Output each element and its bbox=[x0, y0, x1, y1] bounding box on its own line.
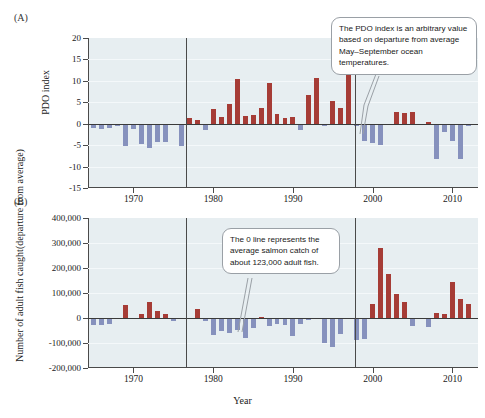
bar-a-1981 bbox=[219, 117, 224, 124]
bar-b-2002 bbox=[386, 274, 391, 318]
bar-b-2010 bbox=[450, 282, 455, 318]
panel-a-label: (A) bbox=[14, 12, 28, 23]
x-axis-tick-label: 2010 bbox=[443, 194, 462, 204]
bar-b-2001 bbox=[378, 248, 383, 318]
y-axis-tick-label: 0 bbox=[77, 313, 89, 323]
bar-a-1992 bbox=[306, 95, 311, 124]
bar-a-2009 bbox=[442, 124, 447, 133]
x-axis-tick-label: 1990 bbox=[283, 374, 302, 384]
x-axis-tick-label: 1980 bbox=[204, 374, 223, 384]
bar-b-1995 bbox=[330, 318, 335, 347]
bar-a-1969 bbox=[123, 124, 128, 146]
zero-line bbox=[88, 318, 478, 319]
bar-a-1974 bbox=[163, 124, 168, 142]
bar-b-2012 bbox=[466, 304, 471, 318]
y-axis-tick-label: 100,000 bbox=[52, 288, 88, 298]
x-axis-tick bbox=[293, 368, 294, 373]
bar-a-1982 bbox=[227, 104, 232, 123]
bar-a-2010 bbox=[450, 124, 455, 142]
x-axis-tick bbox=[213, 188, 214, 193]
bar-a-2011 bbox=[458, 124, 463, 160]
x-axis-line bbox=[88, 187, 478, 188]
x-axis-tick-label: 1970 bbox=[124, 194, 143, 204]
y-axis-tick-label: -10 bbox=[69, 162, 88, 172]
panel-b-y-axis-label: Number of adult fish caught (departure f… bbox=[14, 222, 25, 362]
gridline bbox=[88, 343, 478, 344]
bar-a-2003 bbox=[394, 112, 399, 124]
bar-a-1983 bbox=[235, 79, 240, 124]
bar-b-1981 bbox=[219, 318, 224, 331]
x-axis-tick-label: 2000 bbox=[363, 194, 382, 204]
bar-a-2005 bbox=[410, 112, 415, 124]
y-axis-tick-label: -5 bbox=[74, 140, 89, 150]
x-axis-tick bbox=[373, 188, 374, 193]
x-axis-tick-label: 1980 bbox=[204, 194, 223, 204]
bar-b-2000 bbox=[370, 304, 375, 318]
bar-b-1965 bbox=[91, 318, 96, 325]
bar-a-2008 bbox=[434, 124, 439, 160]
y-axis-tick-label: 20 bbox=[72, 33, 88, 43]
callout-zero-line-text: The 0 line represents the average salmon… bbox=[230, 234, 332, 268]
bar-b-2005 bbox=[410, 318, 415, 326]
callout-zero-line-leader bbox=[232, 276, 272, 336]
x-axis-tick bbox=[452, 188, 453, 193]
panel-a-y-axis-label: PDO index bbox=[40, 70, 51, 115]
bar-b-1996 bbox=[338, 318, 343, 334]
bar-a-1985 bbox=[251, 115, 256, 124]
y-axis-tick-label: 15 bbox=[72, 54, 88, 64]
bar-b-1980 bbox=[211, 318, 216, 335]
gridline bbox=[88, 167, 478, 168]
panel-b-y-axis-label-line1: Number of adult fish caught bbox=[14, 249, 25, 362]
bar-b-1978 bbox=[195, 309, 200, 318]
y-axis-tick-label: 200,000 bbox=[52, 263, 88, 273]
bar-a-1971 bbox=[139, 124, 144, 145]
bar-b-1969 bbox=[123, 305, 128, 318]
bar-b-1972 bbox=[147, 302, 152, 319]
bar-b-1973 bbox=[155, 311, 160, 318]
figure-pdo-salmon: (A) (B) PDO index Number of adult fish c… bbox=[0, 0, 485, 418]
bar-a-1988 bbox=[275, 114, 280, 123]
x-axis-tick bbox=[293, 188, 294, 193]
zero-line bbox=[88, 124, 478, 125]
regime-shift-line bbox=[355, 218, 356, 368]
gridline bbox=[88, 293, 478, 294]
x-axis-tick-label: 1990 bbox=[283, 194, 302, 204]
panel-b-y-axis-label-line2: (departure from average) bbox=[14, 149, 25, 249]
y-axis-tick-label: 300,000 bbox=[52, 238, 88, 248]
bar-b-1994 bbox=[322, 318, 327, 343]
bar-b-2004 bbox=[402, 302, 407, 318]
y-axis-tick-label: 400,000 bbox=[52, 213, 88, 223]
bar-b-1982 bbox=[227, 318, 232, 333]
bar-a-1972 bbox=[147, 124, 152, 148]
bar-b-2003 bbox=[394, 294, 399, 318]
bar-a-1987 bbox=[267, 83, 272, 124]
bar-a-1986 bbox=[259, 108, 264, 123]
regime-shift-line bbox=[186, 218, 187, 368]
gridline bbox=[88, 102, 478, 103]
bar-a-1984 bbox=[243, 116, 248, 123]
callout-pdo-index-leader bbox=[330, 72, 380, 137]
bar-b-2007 bbox=[426, 318, 431, 327]
x-axis-tick-label: 2000 bbox=[363, 374, 382, 384]
x-axis-tick bbox=[373, 368, 374, 373]
x-axis-tick bbox=[133, 368, 134, 373]
bar-b-1999 bbox=[362, 318, 367, 339]
bar-a-1973 bbox=[155, 124, 160, 142]
callout-pdo-index: The PDO index is an arbitrary value base… bbox=[331, 17, 477, 75]
y-axis-tick-label: 5 bbox=[77, 97, 89, 107]
bar-a-1976 bbox=[179, 124, 184, 146]
y-axis-tick-label: 10 bbox=[72, 76, 88, 86]
x-axis-tick bbox=[452, 368, 453, 373]
regime-shift-line bbox=[186, 38, 187, 188]
callout-pdo-index-text: The PDO index is an arbitrary value base… bbox=[339, 23, 469, 69]
x-axis-tick-label: 2010 bbox=[443, 374, 462, 384]
bar-a-1993 bbox=[314, 78, 319, 124]
bar-b-1990 bbox=[290, 318, 295, 336]
x-axis-tick bbox=[213, 368, 214, 373]
callout-zero-line: The 0 line represents the average salmon… bbox=[222, 228, 340, 274]
y-axis-tick-label: -15 bbox=[69, 183, 88, 193]
bar-b-1966 bbox=[99, 318, 104, 325]
y-axis-tick-label: 0 bbox=[77, 119, 89, 129]
x-axis-tick-label: 1970 bbox=[124, 374, 143, 384]
y-axis-tick-label: -100,000 bbox=[49, 338, 88, 348]
